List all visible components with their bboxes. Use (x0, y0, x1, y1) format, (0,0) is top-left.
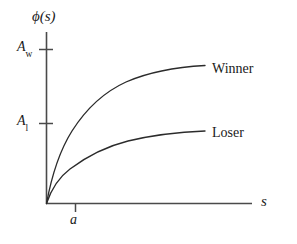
figure-container: ϕ(s) s Aw Al a Winner Loser (0, 0, 297, 244)
y-tick-label-aw: Aw (17, 40, 32, 57)
y-axis-title: ϕ(s) (32, 9, 56, 24)
plot-canvas (0, 0, 297, 244)
y-tick-label-al: Al (17, 114, 28, 131)
y-tick-label-aw-base: A (17, 39, 26, 54)
x-tick-label-a: a (70, 213, 77, 227)
curve-loser (47, 131, 206, 204)
x-axis-title: s (261, 194, 267, 209)
y-tick-label-aw-subscript: w (26, 49, 33, 59)
y-tick-label-al-subscript: l (26, 123, 29, 133)
curve-winner (47, 66, 206, 204)
curve-label-loser: Loser (212, 126, 244, 140)
curve-label-winner: Winner (212, 62, 253, 76)
y-tick-label-al-base: A (17, 113, 26, 128)
